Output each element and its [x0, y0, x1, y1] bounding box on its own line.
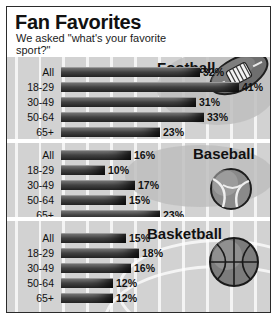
row-age-label: 30-49: [7, 262, 54, 274]
row-age-label: 18-29: [7, 247, 54, 259]
bar-value-football-18-29: 41%: [242, 81, 263, 93]
table-row: 30-49 16%: [7, 262, 270, 274]
row-age-label: 18-29: [7, 81, 54, 93]
row-age-label: 65+: [7, 292, 54, 304]
row-age-label: 65+: [7, 126, 54, 138]
bar-value-baseball-30-49: 17%: [138, 179, 159, 191]
bar-football-all: [61, 67, 200, 77]
bar-value-basketball-all: 15%: [129, 232, 150, 244]
table-row: 50-64 33%: [7, 111, 270, 123]
table-row: All 16%: [7, 149, 270, 161]
table-row: 18-29 10%: [7, 164, 270, 176]
bar-football-50-64: [61, 112, 204, 122]
row-age-label: All: [7, 232, 54, 244]
row-age-label: All: [7, 66, 54, 78]
bar-baseball-18-29: [61, 165, 105, 175]
row-age-label: 50-64: [7, 277, 54, 289]
panel-football: Football All 32% 18-29 41% 30-49 31%: [7, 57, 270, 139]
header: Fan Favorites We asked "what's your favo…: [7, 7, 270, 57]
table-row: All 32%: [7, 66, 270, 78]
table-row: All 15%: [7, 232, 270, 244]
row-age-label: 65+: [7, 209, 54, 217]
table-row: 65+ 23%: [7, 126, 270, 138]
page-title: Fan Favorites: [15, 11, 141, 34]
table-row: 30-49 17%: [7, 179, 270, 191]
row-age-label: 18-29: [7, 164, 54, 176]
bar-value-football-30-49: 31%: [199, 96, 220, 108]
bar-value-basketball-65-plus: 12%: [116, 292, 137, 304]
bar-value-baseball-all: 16%: [134, 149, 155, 161]
subtitle: We asked "what's your favorite sport?": [16, 33, 196, 56]
infographic-panel: Fan Favorites We asked "what's your favo…: [6, 6, 271, 313]
bar-value-baseball-50-64: 15%: [129, 194, 150, 206]
bar-football-65-plus: [61, 127, 160, 137]
table-row: 18-29 41%: [7, 81, 270, 93]
bar-basketball-18-29: [61, 248, 139, 258]
bar-basketball-50-64: [61, 278, 113, 288]
bar-football-30-49: [61, 97, 196, 107]
bar-value-baseball-18-29: 10%: [108, 164, 129, 176]
table-row: 65+ 23%: [7, 209, 270, 217]
bar-value-football-50-64: 33%: [207, 111, 228, 123]
bar-value-baseball-65-plus: 23%: [163, 209, 184, 217]
panel-baseball: Baseball All 16% 18-29 10% 30-49 17% 50-…: [7, 143, 270, 217]
bar-baseball-50-64: [61, 195, 126, 205]
bar-football-18-29: [61, 82, 239, 92]
row-age-label: 50-64: [7, 194, 54, 206]
bar-value-football-65-plus: 23%: [163, 126, 184, 138]
table-row: 50-64 12%: [7, 277, 270, 289]
row-age-label: 30-49: [7, 179, 54, 191]
bar-baseball-30-49: [61, 180, 135, 190]
bar-value-basketball-30-49: 16%: [134, 262, 155, 274]
bar-basketball-30-49: [61, 263, 131, 273]
bar-value-basketball-18-29: 18%: [142, 247, 163, 259]
panel-basketball: Basketball All 15% 18-29 18% 30-49 16% 5…: [7, 221, 270, 313]
table-row: 50-64 15%: [7, 194, 270, 206]
bar-value-football-all: 32%: [203, 66, 224, 78]
table-row: 18-29 18%: [7, 247, 270, 259]
bar-basketball-all: [61, 233, 126, 243]
row-age-label: All: [7, 149, 54, 161]
bar-basketball-65-plus: [61, 293, 113, 303]
table-row: 30-49 31%: [7, 96, 270, 108]
bar-baseball-65-plus: [61, 210, 160, 217]
row-age-label: 50-64: [7, 111, 54, 123]
table-row: 65+ 12%: [7, 292, 270, 304]
bar-value-basketball-50-64: 12%: [116, 277, 137, 289]
bar-baseball-all: [61, 150, 131, 160]
row-age-label: 30-49: [7, 96, 54, 108]
